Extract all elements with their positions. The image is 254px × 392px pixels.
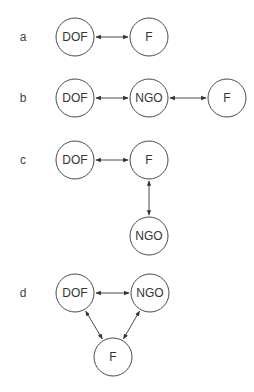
panel-d: dDOFNGOF	[20, 274, 169, 376]
panel-c: cDOFFNGO	[20, 141, 168, 255]
node-label: F	[223, 91, 230, 105]
node-label: F	[145, 30, 152, 44]
node-b-ngo: NGO	[130, 79, 168, 117]
panels-layer: aDOFFbDOFNGOFcDOFFNGOdDOFNGOF	[20, 18, 246, 376]
node-d-f: F	[94, 338, 132, 376]
bidirectional-arrow-d-ngo-d-f	[124, 311, 140, 339]
node-label: NGO	[135, 91, 162, 105]
node-label: F	[145, 153, 152, 167]
node-d-dof: DOF	[56, 274, 94, 312]
node-label: NGO	[135, 229, 162, 243]
node-a-dof: DOF	[56, 18, 94, 56]
node-b-f: F	[208, 79, 246, 117]
node-c-dof: DOF	[56, 141, 94, 179]
panel-b: bDOFNGOF	[20, 79, 246, 117]
panel-label: c	[20, 153, 26, 167]
node-label: F	[109, 350, 116, 364]
panel-label: b	[20, 91, 27, 105]
node-label: DOF	[62, 91, 87, 105]
node-d-ngo: NGO	[131, 274, 169, 312]
node-a-f: F	[130, 18, 168, 56]
panel-a: aDOFF	[20, 18, 168, 56]
organization-relationship-diagram: aDOFFbDOFNGOFcDOFFNGOdDOFNGOF	[0, 0, 254, 392]
node-label: DOF	[62, 286, 87, 300]
node-c-ngo: NGO	[130, 217, 168, 255]
bidirectional-arrow-d-dof-d-f	[86, 311, 103, 339]
node-c-f: F	[130, 141, 168, 179]
node-label: NGO	[136, 286, 163, 300]
panel-label: d	[20, 286, 27, 300]
panel-label: a	[20, 30, 27, 44]
node-b-dof: DOF	[56, 79, 94, 117]
node-label: DOF	[62, 30, 87, 44]
node-label: DOF	[62, 153, 87, 167]
